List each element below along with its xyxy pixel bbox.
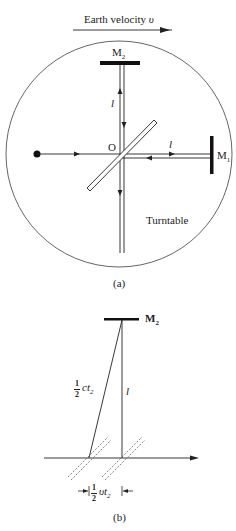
- hyp-num: 1: [75, 380, 79, 388]
- mirror-m2-b-label: M2: [145, 313, 159, 327]
- shift-sub: 2: [107, 493, 111, 501]
- m2-sub: 2: [122, 53, 126, 61]
- arrow-down-icon: [122, 122, 127, 128]
- hypotenuse-line: [89, 320, 122, 458]
- caption-b: (b): [113, 512, 126, 523]
- shift-expr-text: υt: [99, 485, 107, 497]
- michelson-morley-diagram: [0, 0, 236, 531]
- origin-label: O: [108, 142, 116, 153]
- hyp-sub: 2: [90, 389, 94, 397]
- beam-splitter: [87, 120, 157, 191]
- m2-b-text: M: [145, 312, 155, 324]
- arrow-down-icon: [118, 190, 123, 196]
- arrow-right-icon: [190, 456, 199, 461]
- mirror-m2-label: M2: [112, 47, 125, 61]
- vertical-arm-length-label: l: [111, 98, 114, 109]
- arrow-right-icon: [74, 152, 80, 157]
- splitter-position-1: [68, 437, 111, 480]
- arrow-right-icon: [169, 152, 175, 157]
- mirror-m2-b: [104, 318, 139, 321]
- earth-velocity-arrow: [73, 27, 172, 33]
- mirror-m1-label: M1: [217, 150, 230, 164]
- velocity-text: Earth velocity: [84, 13, 149, 25]
- m2-text: M: [112, 46, 122, 58]
- arrow-left-icon: [146, 156, 152, 161]
- hypotenuse-label: 1 2 ct2: [74, 380, 93, 399]
- arm-length-b-label: l: [126, 386, 129, 397]
- hyp-expr: ct2: [82, 382, 93, 396]
- splitter-position-2: [102, 437, 145, 480]
- caption-a: (a): [113, 278, 125, 289]
- velocity-symbol: υ: [149, 13, 154, 25]
- m1-text: M: [217, 149, 227, 161]
- hyp-fraction: 1 2: [74, 380, 80, 399]
- m1-sub: 1: [227, 156, 231, 164]
- horizontal-beam: [120, 154, 211, 158]
- turntable-label: Turntable: [146, 215, 188, 226]
- shift-num: 1: [92, 484, 96, 492]
- mirror-m1: [210, 136, 214, 174]
- hyp-den: 2: [75, 391, 79, 399]
- arrow-up-icon: [118, 88, 123, 94]
- shift-label: 1 2 υt2: [91, 484, 111, 503]
- horizontal-arm-length-label: l: [169, 139, 172, 150]
- hyp-expr-text: ct: [82, 381, 90, 393]
- shift-expr: υt2: [99, 486, 111, 500]
- m2-b-sub: 2: [155, 319, 159, 327]
- mirror-m2: [100, 61, 140, 65]
- shift-fraction: 1 2: [91, 484, 97, 503]
- shift-den: 2: [92, 495, 96, 503]
- earth-velocity-label: Earth velocity υ: [84, 14, 154, 25]
